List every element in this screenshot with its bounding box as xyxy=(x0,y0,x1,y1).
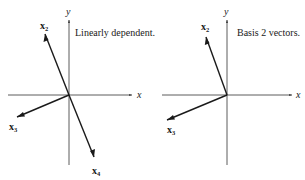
panel-left: x y x2 x3 x4 Linearly dependent. xyxy=(8,6,155,177)
caption-left: Linearly dependent. xyxy=(75,27,155,38)
y-axis-label: y xyxy=(223,6,229,17)
y-axis-label: y xyxy=(65,6,71,17)
vector-x3 xyxy=(167,95,227,120)
vector-x3-label: x3 xyxy=(9,121,18,133)
x-axis-label: x xyxy=(136,89,142,100)
vector-x2-label: x2 xyxy=(201,21,209,33)
vector-x4-label: x4 xyxy=(92,165,101,177)
vector-x2 xyxy=(206,37,227,95)
vector-x2 xyxy=(45,34,69,95)
vector-x3 xyxy=(17,95,69,117)
vector-x3-label: x3 xyxy=(167,124,176,136)
x-axis-label: x xyxy=(295,89,301,100)
vector-diagram-figure: x y x2 x3 x4 Linearly dependent. x y x2 … xyxy=(0,0,305,180)
vector-x2-label: x2 xyxy=(40,20,48,32)
caption-right: Basis 2 vectors. xyxy=(237,27,300,38)
panel-right: x y x2 x3 Basis 2 vectors. xyxy=(162,6,301,165)
diagram-canvas: x y x2 x3 x4 Linearly dependent. x y x2 … xyxy=(0,0,305,180)
vector-x4 xyxy=(69,95,94,157)
